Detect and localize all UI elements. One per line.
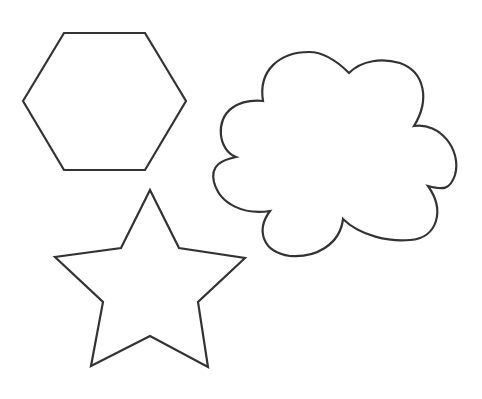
cloud-shape: [213, 52, 456, 256]
star-shape: [55, 190, 245, 367]
hexagon-shape: [23, 33, 186, 170]
shapes-canvas: [0, 0, 482, 399]
